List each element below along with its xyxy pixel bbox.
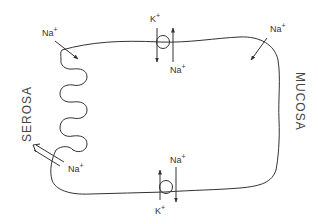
serosa-label: SEROSA bbox=[20, 86, 34, 142]
ion-label-na-top-pump: Na+ bbox=[170, 63, 186, 75]
ion-label-na-bottom-pump: Na+ bbox=[170, 153, 186, 165]
na-serosa-efflux-arrow-icon bbox=[33, 144, 64, 166]
ion-label-na-top-right: Na+ bbox=[270, 22, 286, 34]
ion-label-k-bottom: K+ bbox=[155, 204, 165, 216]
ion-label-na-serosa: Na+ bbox=[68, 162, 84, 174]
mucosa-label: MUCOSA bbox=[293, 72, 307, 131]
top-pump bbox=[157, 28, 174, 62]
ion-label-na-top-left: Na+ bbox=[42, 26, 58, 38]
cell-membrane bbox=[51, 37, 280, 194]
bottom-pump bbox=[160, 167, 177, 202]
na-influx-arrow-icon bbox=[55, 41, 78, 59]
ion-label-k-top: K+ bbox=[150, 12, 160, 24]
na-influx-arrow-icon bbox=[251, 38, 267, 60]
ion-transport-diagram: K+ Na+ Na+ K+ Na+ Na+ Na+ SEROSA MUCOSA bbox=[0, 0, 318, 224]
